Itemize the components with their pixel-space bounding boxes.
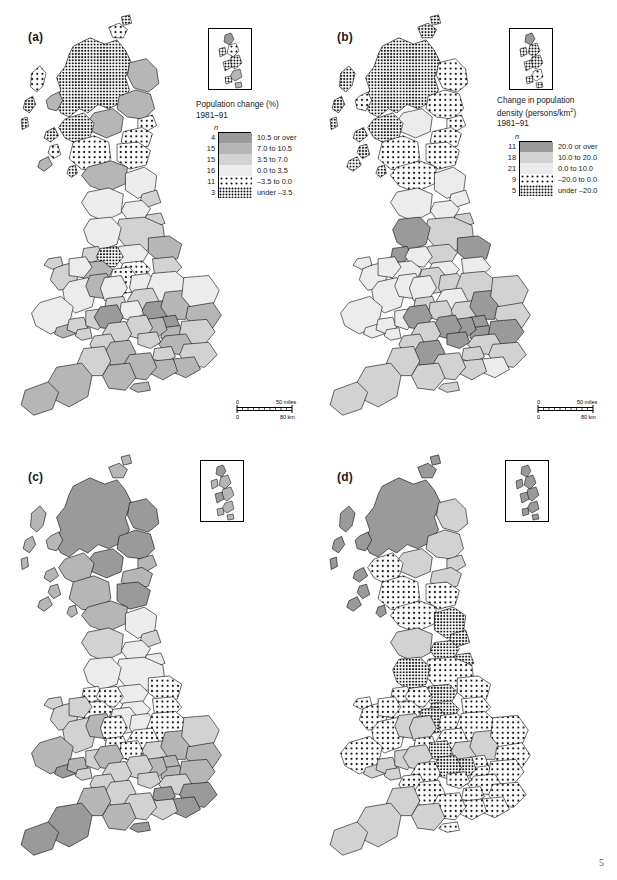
scale-bar: 0 50 miles 0 80 km <box>537 398 609 422</box>
panel-b: (b) Change in populationdensity (persons… <box>309 0 617 440</box>
panel-a-legend-n-header: n <box>214 124 319 131</box>
panel-a-legend-rows: 4 10.5 or over15 7.0 to 10.515 <box>196 132 319 198</box>
legend-class-count: 15 <box>196 144 218 153</box>
legend-class-count: 15 <box>196 155 218 164</box>
panel-a: (a) Population change (%)1981–91 n <box>0 0 308 440</box>
svg-text:50 miles: 50 miles <box>276 399 296 405</box>
legend-class-label: –20.0 to 0.0 <box>552 175 617 184</box>
legend-class-swatch <box>519 163 552 174</box>
legend-class-count: 4 <box>196 133 218 142</box>
panel-b-legend: Change in populationdensity (persons/km2… <box>497 96 617 196</box>
legend-class-row: 4 10.5 or over <box>196 132 319 143</box>
legend-class-row: 15 7.0 to 10.5 <box>196 143 319 154</box>
legend-class-row: 5 under –20.0 <box>497 185 617 196</box>
scale-bar: 0 50 miles 0 80 km <box>236 398 308 422</box>
legend-class-swatch <box>218 132 251 143</box>
svg-text:50 miles: 50 miles <box>577 399 597 405</box>
legend-class-swatch <box>519 152 552 163</box>
legend-class-label: 20.0 or over <box>552 142 617 151</box>
legend-class-swatch <box>218 143 251 154</box>
legend-class-count: 5 <box>497 186 519 195</box>
legend-class-row: 18 10.0 to 20.0 <box>497 152 617 163</box>
legend-class-count: 16 <box>196 166 218 175</box>
page-number: 5 <box>599 857 604 868</box>
panel-c: (c) Population change (%)1971–81 n <box>0 440 308 880</box>
panel-b-map <box>309 0 617 440</box>
legend-class-row: 3 under –3.5 <box>196 187 319 198</box>
panel-b-legend-title: Change in populationdensity (persons/km2… <box>497 96 617 130</box>
legend-class-label: 10.0 to 20.0 <box>552 153 617 162</box>
legend-class-count: 11 <box>196 177 218 186</box>
svg-text:0: 0 <box>537 399 540 405</box>
panel-a-legend: Population change (%)1981–91 n 4 10.5 or… <box>196 100 319 198</box>
legend-class-swatch <box>519 141 552 152</box>
legend-class-row: 16 0.0 to 3.5 <box>196 165 319 176</box>
panel-c-shetland-inset <box>200 460 244 522</box>
legend-class-swatch <box>218 176 251 187</box>
panel-a-shetland-inset <box>208 28 252 90</box>
svg-text:0: 0 <box>537 414 540 420</box>
svg-text:0: 0 <box>236 414 239 420</box>
svg-text:80 km: 80 km <box>280 414 295 420</box>
legend-class-count: 3 <box>196 188 218 197</box>
legend-class-count: 11 <box>497 142 519 151</box>
legend-class-row: 9 –20.0 to 0.0 <box>497 174 617 185</box>
panel-d-shetland-inset <box>505 460 549 522</box>
svg-text:80 km: 80 km <box>581 414 596 420</box>
legend-class-swatch <box>218 165 251 176</box>
legend-class-label: 0.0 to 10.0 <box>552 164 617 173</box>
legend-class-count: 9 <box>497 175 519 184</box>
legend-class-swatch <box>519 174 552 185</box>
legend-class-swatch <box>218 187 251 198</box>
panel-b-shetland-inset <box>509 28 553 90</box>
panel-b-legend-rows: 11 20.0 or over18 10.0 to 20.021 <box>497 141 617 196</box>
legend-class-row: 15 3.5 to 7.0 <box>196 154 319 165</box>
panel-b-legend-n-header: n <box>515 133 617 140</box>
legend-class-label: under –20.0 <box>552 186 617 195</box>
legend-class-row: 11 –3.5 to 0.0 <box>196 176 319 187</box>
panel-c-map <box>0 440 308 880</box>
panel-a-legend-title: Population change (%)1981–91 <box>196 100 319 121</box>
legend-class-swatch <box>519 185 552 196</box>
legend-class-row: 11 20.0 or over <box>497 141 617 152</box>
legend-class-count: 18 <box>497 153 519 162</box>
legend-class-row: 21 0.0 to 10.0 <box>497 163 617 174</box>
panel-d-map <box>309 440 617 880</box>
panel-a-map <box>0 0 308 440</box>
svg-text:0: 0 <box>236 399 239 405</box>
legend-class-swatch <box>218 154 251 165</box>
panel-d: (d) Shift in populationchange rate (% po… <box>309 440 617 880</box>
legend-class-count: 21 <box>497 164 519 173</box>
